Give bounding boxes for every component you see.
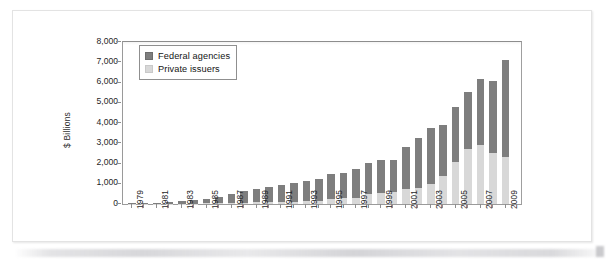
x-axis-tick-mark [480,204,481,208]
x-axis-tick-mark [380,204,381,208]
y-axis-tick-label: 7,000 [86,57,118,66]
bar-group [489,81,497,204]
x-axis-tick-mark [455,204,456,208]
x-axis-tick-mark [181,204,182,208]
y-axis-tick-mark [116,41,121,42]
bar-group [477,79,485,204]
bar-segment-federal-agencies [415,138,423,187]
y-axis-tick-mark [116,183,121,184]
x-axis-tick-mark [168,204,169,208]
x-axis-tick-mark [492,204,493,208]
x-axis-tick-mark [231,204,232,208]
x-axis-tick-mark [156,204,157,208]
x-axis-tick-mark [330,204,331,208]
y-axis-tick-mark [116,203,121,204]
legend-swatch-light-square-icon [145,65,153,73]
bar-group [502,60,510,204]
x-axis-tick-mark [305,204,306,208]
x-axis-tick-mark [467,204,468,208]
bar-segment-federal-agencies [489,81,497,153]
bar-segment-federal-agencies [402,147,410,190]
y-axis-tick-label: 1,000 [86,178,118,187]
legend-label-private-issuers: Private issuers [158,64,220,74]
y-axis-tick-labels: 01,0002,0003,0004,0005,0006,0007,0008,00… [82,0,118,262]
y-axis-tick-mark [116,142,121,143]
y-axis-title: $ Billions [62,134,72,148]
bar-group [464,92,472,204]
y-axis-tick-label: 8,000 [86,37,118,46]
y-axis-tick-label: 0 [86,199,118,208]
x-axis-tick-mark [256,204,257,208]
x-axis-tick-mark [442,204,443,208]
x-axis-tick-mark [343,204,344,208]
x-axis-tick-mark [218,204,219,208]
y-axis-tick-mark [116,163,121,164]
bar-segment-federal-agencies [390,160,398,191]
bar-segment-federal-agencies [377,160,385,193]
x-axis-tick-mark [318,204,319,208]
bar-segment-federal-agencies [439,125,447,176]
y-axis-tick-mark [116,61,121,62]
x-axis-tick-mark [280,204,281,208]
y-axis-tick-label: 3,000 [86,138,118,147]
x-axis-tick-mark [206,204,207,208]
chart-legend: Federal agencies Private issuers [139,45,237,80]
x-axis-tick-mark [243,204,244,208]
y-axis-tick-mark [116,102,121,103]
x-axis-tick-mark [355,204,356,208]
y-axis-tick-label: 4,000 [86,118,118,127]
x-axis-tick-mark [505,204,506,208]
legend-item-private-issuers: Private issuers [145,62,230,75]
y-axis-tick-label: 6,000 [86,77,118,86]
bar-segment-federal-agencies [427,128,435,183]
x-axis-tick-mark [392,204,393,208]
stacked-bar-chart: $ Billions 01,0002,0003,0004,0005,0006,0… [0,0,609,262]
y-axis-tick-mark [116,82,121,83]
x-axis-tick-mark [417,204,418,208]
legend-swatch-dark-square-icon [145,52,153,60]
x-axis-tick-mark [430,204,431,208]
x-axis-tick-mark [131,204,132,208]
x-axis-tick-label: 2009 [509,190,519,209]
bar-segment-federal-agencies [464,92,472,149]
x-axis-tick-mark [405,204,406,208]
x-axis-tick-mark [268,204,269,208]
y-axis-tick-mark [116,122,121,123]
x-axis-tick-mark [293,204,294,208]
x-axis-tick-mark [143,204,144,208]
page-scan-corner-artifact [596,246,604,257]
legend-item-federal-agencies: Federal agencies [145,49,230,62]
bar-segment-federal-agencies [502,60,510,157]
bar-segment-federal-agencies [452,107,460,162]
x-axis-tick-mark [193,204,194,208]
bar-segment-federal-agencies [477,79,485,145]
y-axis-tick-label: 5,000 [86,97,118,106]
legend-label-federal-agencies: Federal agencies [158,51,230,61]
y-axis-tick-label: 2,000 [86,158,118,167]
x-axis-tick-mark [368,204,369,208]
